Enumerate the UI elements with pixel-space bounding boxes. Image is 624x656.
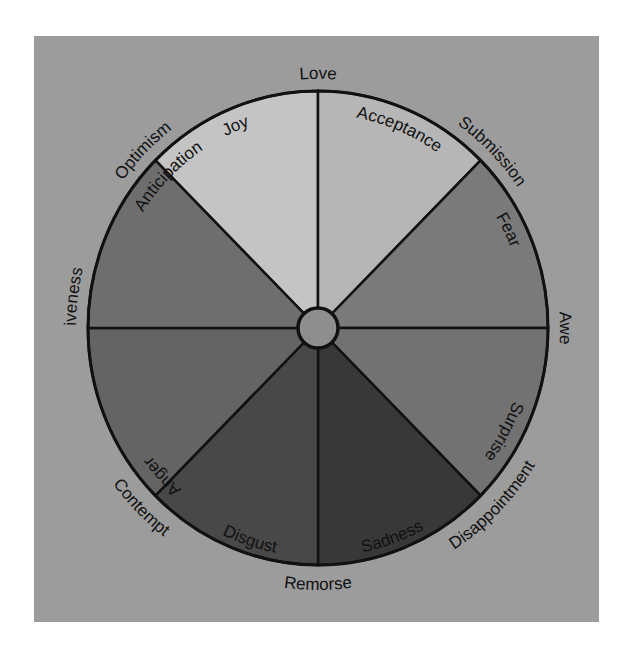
center-hub — [298, 308, 338, 348]
label-awe: Awe — [556, 311, 575, 345]
label-remorse: Remorse — [283, 573, 353, 594]
label-aggressiveness: Aggressiveness — [0, 0, 87, 326]
label-love: Love — [299, 64, 337, 84]
emotion-wheel: Anticipation Joy Acceptance Fear Anger S… — [0, 0, 624, 656]
